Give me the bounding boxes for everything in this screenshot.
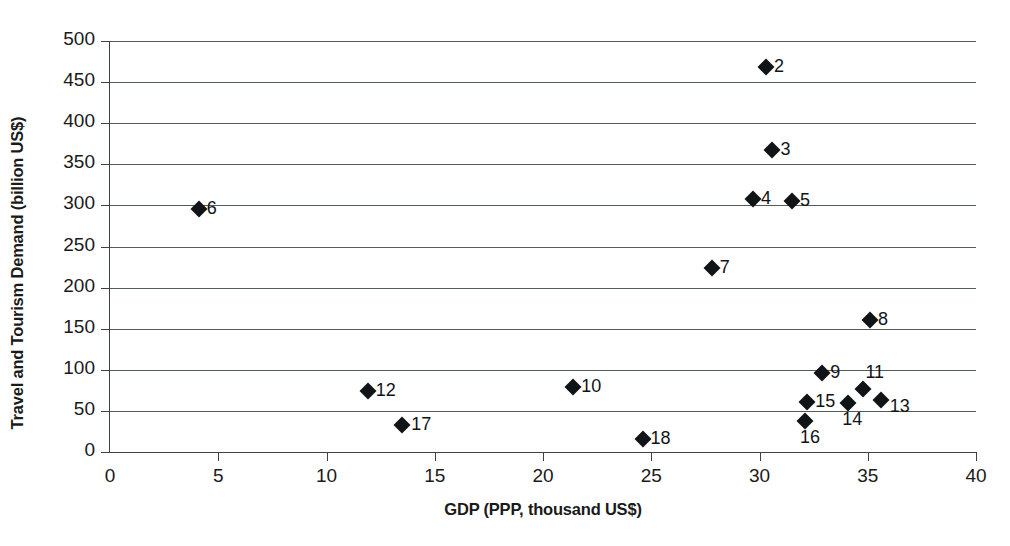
gridline — [110, 41, 976, 42]
data-point-label: 17 — [411, 414, 431, 435]
data-point-marker[interactable] — [757, 59, 774, 76]
x-tick-mark — [868, 452, 869, 461]
x-tick-label: 35 — [838, 465, 898, 487]
data-point-label: 5 — [800, 190, 810, 211]
data-point-label: 10 — [581, 376, 601, 397]
gridline — [110, 370, 976, 371]
data-point-marker[interactable] — [814, 365, 831, 382]
gridline — [110, 205, 976, 206]
data-point-marker[interactable] — [703, 259, 720, 276]
y-tick-label: 500 — [22, 28, 95, 50]
x-tick-mark — [543, 452, 544, 461]
gridline — [110, 247, 976, 248]
y-tick-label: 150 — [22, 316, 95, 338]
data-point-marker[interactable] — [190, 200, 207, 217]
data-point-label: 2 — [774, 56, 784, 77]
y-tick-mark — [101, 205, 110, 206]
data-point-marker[interactable] — [855, 380, 872, 397]
data-point-marker[interactable] — [359, 383, 376, 400]
y-tick-mark — [101, 329, 110, 330]
data-point-label: 12 — [376, 380, 396, 401]
data-point-marker[interactable] — [394, 416, 411, 433]
x-axis-right-tick — [976, 452, 977, 461]
y-tick-label: 400 — [22, 110, 95, 132]
x-tick-label: 40 — [946, 465, 1006, 487]
data-point-marker[interactable] — [783, 193, 800, 210]
y-tick-mark — [101, 82, 110, 83]
plot-area: 050100150200250300350400450500 051015202… — [110, 41, 976, 452]
y-tick-mark — [101, 123, 110, 124]
y-tick-mark — [101, 164, 110, 165]
data-point-marker[interactable] — [764, 141, 781, 158]
gridline — [110, 82, 976, 83]
x-tick-label: 0 — [80, 465, 140, 487]
data-point-label: 18 — [651, 428, 671, 449]
gridline — [110, 329, 976, 330]
y-tick-label: 0 — [22, 439, 95, 461]
data-point-label: 4 — [761, 188, 771, 209]
gridline — [110, 288, 976, 289]
data-point-marker[interactable] — [861, 311, 878, 328]
y-tick-label: 250 — [22, 234, 95, 256]
x-tick-label: 30 — [730, 465, 790, 487]
data-point-label: 11 — [865, 362, 884, 383]
data-point-label: 14 — [842, 409, 862, 430]
data-point-label: 8 — [878, 309, 888, 330]
x-tick-label: 10 — [297, 465, 357, 487]
x-tick-label: 15 — [405, 465, 465, 487]
data-point-marker[interactable] — [799, 393, 816, 410]
x-tick-mark — [435, 452, 436, 461]
y-tick-mark — [101, 288, 110, 289]
y-tick-mark — [101, 452, 110, 453]
x-tick-label: 20 — [513, 465, 573, 487]
x-tick-label: 5 — [188, 465, 248, 487]
data-point-label: 7 — [720, 257, 730, 278]
y-tick-mark — [101, 411, 110, 412]
gridline — [110, 123, 976, 124]
data-point-label: 13 — [890, 396, 910, 417]
x-tick-mark — [651, 452, 652, 461]
gridline — [110, 164, 976, 165]
data-point-marker[interactable] — [634, 430, 651, 447]
y-tick-mark — [101, 41, 110, 42]
y-tick-label: 450 — [22, 69, 95, 91]
scatter-chart: Travel and Tourism Demand (billion US$) … — [0, 0, 1010, 546]
x-axis-title: GDP (PPP, thousand US$) — [110, 500, 976, 519]
data-point-label: 3 — [780, 139, 790, 160]
y-tick-label: 50 — [22, 398, 95, 420]
data-point-label: 9 — [830, 362, 840, 383]
y-tick-label: 300 — [22, 192, 95, 214]
data-point-marker[interactable] — [565, 379, 582, 396]
y-tick-mark — [101, 247, 110, 248]
y-tick-label: 350 — [22, 151, 95, 173]
x-tick-mark — [760, 452, 761, 461]
y-tick-label: 200 — [22, 275, 95, 297]
x-tick-mark — [218, 452, 219, 461]
data-point-label: 16 — [800, 427, 820, 448]
y-tick-label: 100 — [22, 357, 95, 379]
y-tick-mark — [101, 370, 110, 371]
x-tick-label: 25 — [621, 465, 681, 487]
data-point-label: 6 — [207, 198, 217, 219]
x-tick-mark — [327, 452, 328, 461]
data-point-marker[interactable] — [872, 392, 889, 409]
data-point-label: 15 — [815, 391, 835, 412]
